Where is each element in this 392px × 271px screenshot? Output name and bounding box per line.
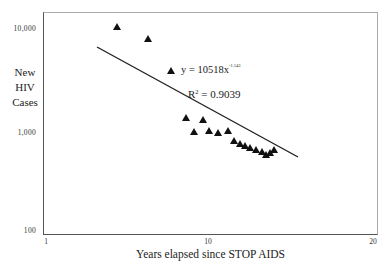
triangle-marker-icon: [214, 129, 222, 136]
triangle-marker-icon: [199, 116, 207, 123]
triangle-marker-icon: [224, 127, 232, 134]
triangle-marker-icon: [205, 127, 213, 134]
scatter-plot: [0, 0, 392, 271]
triangle-marker-icon: [182, 114, 190, 121]
triangle-marker-icon: [230, 137, 238, 144]
r2-value: = 0.9039: [199, 88, 241, 100]
trendline-equation: y = 10518x-1.143: [181, 63, 241, 75]
triangle-marker-icon: [167, 67, 175, 74]
triangle-marker-icon: [270, 146, 278, 153]
equation-text: y = 10518x: [181, 64, 229, 75]
triangle-marker-icon: [190, 128, 198, 135]
triangle-marker-icon: [144, 35, 152, 42]
triangle-marker-icon: [252, 146, 260, 153]
triangle-marker-icon: [113, 23, 121, 30]
r-squared-label: R2 = 0.9039: [188, 88, 241, 100]
equation-exponent: -1.143: [229, 63, 241, 68]
